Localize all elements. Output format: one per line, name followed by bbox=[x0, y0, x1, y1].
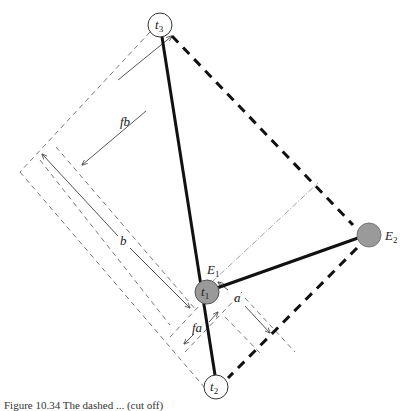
svg-text:E2: E2 bbox=[384, 228, 397, 245]
node-E2: E2 bbox=[357, 223, 397, 247]
node-t1: t1 bbox=[195, 280, 219, 304]
dimension-b-arrow-bottom bbox=[130, 248, 190, 308]
label-b: b bbox=[120, 233, 127, 248]
dimension-fb-arrow bbox=[82, 111, 146, 165]
node-t2: t2 bbox=[204, 375, 228, 399]
inner-dashed-rectangle-fb bbox=[40, 147, 295, 355]
edge-E2-t2-dashed bbox=[228, 248, 357, 378]
label-E1: E1 bbox=[206, 262, 219, 279]
node-t3: t3 bbox=[148, 13, 172, 37]
edge-t1-E2 bbox=[217, 238, 358, 288]
figure-caption: Figure 10.34 The dashed ... (cut off) bbox=[4, 399, 408, 411]
label-a: a bbox=[234, 290, 241, 305]
dimension-fa-arrow-2 bbox=[209, 312, 218, 322]
outer-dashed-rectangle bbox=[20, 32, 205, 388]
dimension-b-arrow-top bbox=[42, 154, 118, 236]
edge-t3-E2-dashed bbox=[172, 36, 353, 225]
label-fa: fa bbox=[192, 320, 203, 335]
dimension-fa-arrow bbox=[184, 334, 194, 344]
label-fb: fb bbox=[120, 114, 131, 129]
dimension-a-arrow bbox=[245, 306, 270, 333]
projection-line bbox=[212, 183, 318, 282]
